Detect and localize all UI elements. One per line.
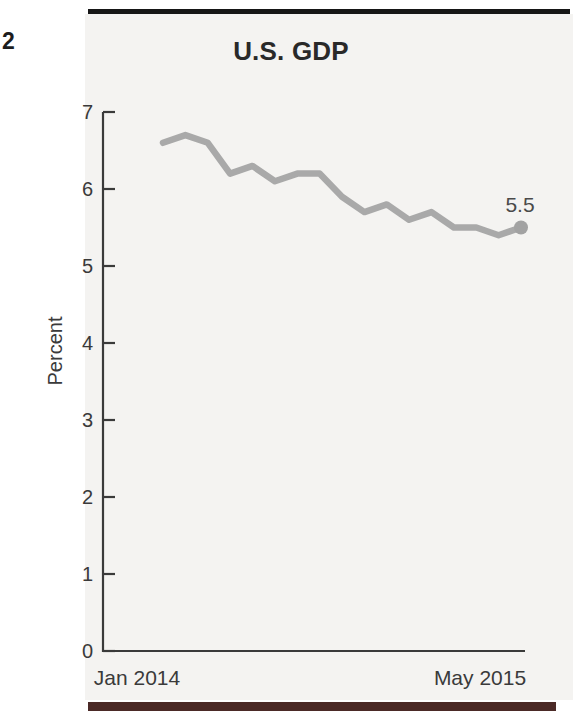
y-tick-label: 6: [82, 178, 93, 200]
y-tick-label: 1: [82, 563, 93, 585]
y-tick-label: 4: [82, 332, 93, 354]
x-tick-label-last: May 2015: [434, 666, 526, 689]
bottom-edge-bar: [88, 702, 556, 711]
y-tick-label: 3: [82, 409, 93, 431]
y-tick-label: 0: [82, 640, 93, 662]
y-tick-label: 2: [82, 486, 93, 508]
y-axis-title: Percent: [44, 316, 66, 385]
axes: [103, 112, 525, 651]
end-point-dot: [514, 221, 528, 235]
data-line: [163, 135, 521, 235]
y-tick-label: 5: [82, 255, 93, 277]
gdp-line-chart: 01234567PercentJan 2014May 20155.5: [0, 0, 573, 711]
y-tick-label: 7: [82, 101, 93, 123]
x-tick-label-first: Jan 2014: [94, 666, 181, 689]
end-value-annotation: 5.5: [505, 193, 534, 216]
